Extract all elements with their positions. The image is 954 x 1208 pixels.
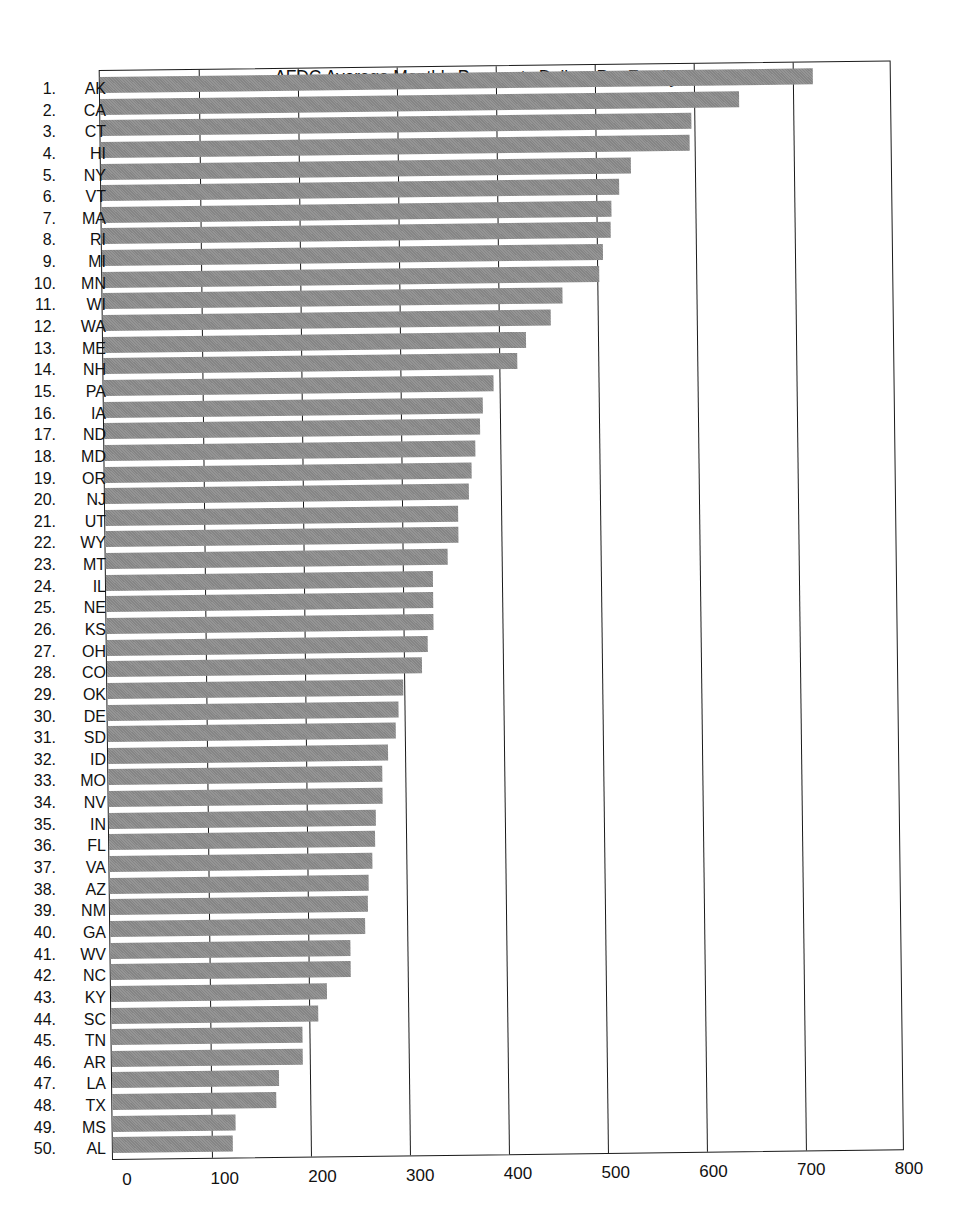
rank-label: 41. xyxy=(18,944,56,966)
bar-nc xyxy=(111,961,351,980)
rank-label: 17. xyxy=(18,424,56,446)
rank-label: 5. xyxy=(18,165,56,187)
x-tick-label: 300 xyxy=(406,1166,434,1186)
row-label: 18.MD xyxy=(18,446,113,468)
state-label: WA xyxy=(62,316,106,338)
rank-label: 48. xyxy=(18,1095,56,1117)
bar-de xyxy=(107,701,398,721)
rank-label: 36. xyxy=(18,835,56,857)
rank-label: 33. xyxy=(18,770,56,792)
row-label: 49.MS xyxy=(18,1117,113,1139)
rank-label: 38. xyxy=(18,879,56,901)
bar-pa xyxy=(103,375,493,396)
state-label: MT xyxy=(62,554,106,576)
row-label: 20.NJ xyxy=(18,489,113,511)
state-label: VA xyxy=(62,857,106,879)
bar-sd xyxy=(108,723,396,743)
bar-al xyxy=(113,1136,233,1153)
state-label: AK xyxy=(62,78,106,100)
bar-il xyxy=(106,571,433,591)
row-label: 41.WV xyxy=(18,944,113,966)
bar-oh xyxy=(107,636,428,656)
bar-wa xyxy=(103,310,552,331)
state-label: LA xyxy=(62,1073,106,1095)
bar-wy xyxy=(105,527,459,547)
row-label: 32.ID xyxy=(18,749,113,771)
state-label: IL xyxy=(62,576,106,598)
row-label: 45.TN xyxy=(18,1030,113,1052)
rank-label: 14. xyxy=(18,359,56,381)
plot-area xyxy=(99,60,904,1160)
state-label: NV xyxy=(62,792,106,814)
state-label: ID xyxy=(62,749,106,771)
bar-wi xyxy=(102,288,563,310)
row-label: 13.ME xyxy=(18,338,113,360)
state-label: NJ xyxy=(62,489,106,511)
row-label: 3.CT xyxy=(18,121,113,143)
bar-ks xyxy=(106,614,433,634)
row-label: 30.DE xyxy=(18,706,113,728)
state-label: OK xyxy=(62,684,106,706)
state-label: TN xyxy=(62,1030,106,1052)
state-label: WY xyxy=(62,532,106,554)
rank-label: 2. xyxy=(18,100,56,122)
rank-label: 34. xyxy=(18,792,56,814)
rank-label: 6. xyxy=(18,186,56,208)
state-label: WV xyxy=(62,944,106,966)
rank-label: 37. xyxy=(18,857,56,879)
bar-ma xyxy=(101,201,611,223)
rank-label: 42. xyxy=(18,965,56,987)
state-label: UT xyxy=(62,511,106,533)
row-label: 47.LA xyxy=(18,1073,113,1095)
rank-label: 31. xyxy=(18,727,56,749)
state-label: HI xyxy=(62,143,106,165)
bar-hi xyxy=(101,135,690,158)
row-label: 10.MN xyxy=(18,273,113,295)
row-label: 48.TX xyxy=(18,1095,113,1117)
rank-label: 50. xyxy=(18,1138,56,1160)
rank-label: 21. xyxy=(18,511,56,533)
row-label: 40.GA xyxy=(18,922,113,944)
row-label: 21.UT xyxy=(18,511,113,533)
bar-vt xyxy=(101,179,619,201)
x-tick-label: 200 xyxy=(308,1167,336,1187)
rank-label: 8. xyxy=(18,229,56,251)
rank-label: 49. xyxy=(18,1117,56,1139)
state-label: VT xyxy=(62,186,106,208)
bar-ut xyxy=(105,506,459,526)
rank-label: 1. xyxy=(18,78,56,100)
gridline-700 xyxy=(793,63,807,1151)
bar-ny xyxy=(101,157,631,179)
bar-in xyxy=(109,809,376,828)
row-label: 16.IA xyxy=(18,403,113,425)
bar-az xyxy=(110,875,370,894)
bar-me xyxy=(103,332,526,353)
state-label: SC xyxy=(62,1009,106,1031)
row-label: 46.AR xyxy=(18,1052,113,1074)
state-label: KS xyxy=(62,619,106,641)
state-label: MI xyxy=(62,251,106,273)
bar-sc xyxy=(111,1005,318,1024)
state-label: AL xyxy=(62,1138,106,1160)
bar-ct xyxy=(100,113,691,136)
rank-label: 30. xyxy=(18,706,56,728)
rank-label: 3. xyxy=(18,121,56,143)
bar-ne xyxy=(106,592,433,612)
state-label: MO xyxy=(62,770,106,792)
rank-label: 26. xyxy=(18,619,56,641)
rank-label: 28. xyxy=(18,662,56,684)
bar-co xyxy=(107,657,422,677)
rank-label: 20. xyxy=(18,489,56,511)
bar-ar xyxy=(112,1048,303,1066)
rank-label: 25. xyxy=(18,597,56,619)
state-label: NM xyxy=(62,900,106,922)
row-label: 6.VT xyxy=(18,186,113,208)
state-label: KY xyxy=(62,987,106,1009)
bar-mo xyxy=(108,766,382,785)
rank-label: 32. xyxy=(18,749,56,771)
state-label: PA xyxy=(62,381,106,403)
bar-va xyxy=(109,853,373,872)
rank-label: 27. xyxy=(18,641,56,663)
bar-ia xyxy=(104,397,483,418)
rank-label: 10. xyxy=(18,273,56,295)
